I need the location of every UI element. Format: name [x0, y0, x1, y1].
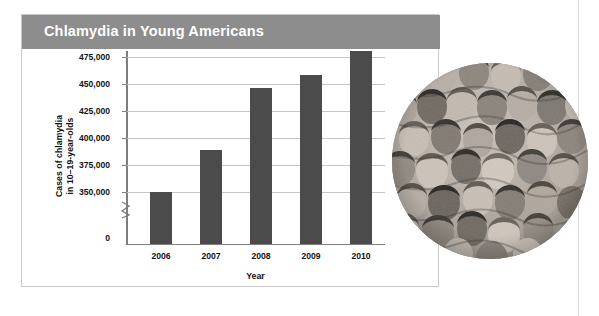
crowd-photo [392, 63, 588, 259]
y-tick-label: 0 [54, 233, 110, 243]
x-tick-label-2010: 2010 [337, 251, 385, 261]
bar-2010[interactable] [350, 51, 372, 244]
axis-break-icon [120, 201, 134, 219]
bar-chart: Cases of chlamydia in 10–19-year-olds 47… [22, 49, 440, 287]
y-tick-mark [122, 84, 127, 85]
y-tick-label: 475,000 [54, 52, 110, 62]
bar-2007[interactable] [200, 150, 222, 244]
x-axis-title: Year [126, 271, 385, 281]
y-tick-mark [122, 138, 127, 139]
x-tick-label-2006: 2006 [137, 251, 185, 261]
y-tick-label: 450,000 [54, 79, 110, 89]
figure-container: Chlamydia in Young Americans Cases of ch… [21, 14, 439, 287]
gridline [127, 84, 385, 85]
y-tick-label: 375,000 [54, 160, 110, 170]
y-tick-label: 350,000 [54, 187, 110, 197]
bar-2006[interactable] [150, 192, 172, 244]
figure-title: Chlamydia in Young Americans [44, 23, 264, 39]
y-tick-label: 425,000 [54, 106, 110, 116]
y-tick-label: 400,000 [54, 133, 110, 143]
plot-area: 2006 2007 2008 2009 2010 [126, 51, 385, 245]
x-tick-label-2008: 2008 [237, 251, 285, 261]
x-tick-label-2007: 2007 [187, 251, 235, 261]
y-tick-mark [122, 111, 127, 112]
y-axis-tick-labels: 475,000 450,000 425,000 400,000 375,000 … [50, 49, 110, 287]
x-tick-label-2009: 2009 [287, 251, 335, 261]
y-tick-mark [122, 165, 127, 166]
y-tick-mark [122, 57, 127, 58]
y-tick-mark [122, 192, 127, 193]
bar-2008[interactable] [250, 88, 272, 244]
bar-2009[interactable] [300, 75, 322, 244]
x-axis-line [126, 244, 385, 246]
figure-title-bar: Chlamydia in Young Americans [22, 15, 440, 49]
gridline [127, 57, 385, 58]
